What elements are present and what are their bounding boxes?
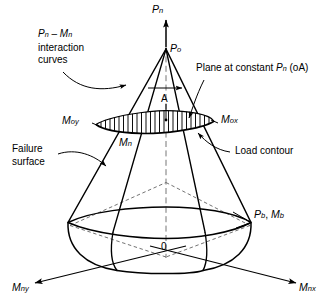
label-origin: 0: [161, 241, 167, 252]
interaction-dash: –: [49, 28, 60, 39]
plane-annotation-prefix: Plane at constant: [196, 62, 276, 73]
axis-label-pn: Pn: [152, 3, 163, 15]
annotation-plane-at-constant-pn: Plane at constant Pn (oA): [196, 62, 308, 73]
plane-annotation-suffix: (oA): [287, 62, 309, 73]
leader-load-contour: [198, 133, 230, 152]
axis-label-mnx-symbol: M: [299, 281, 308, 293]
label-mn-symbol: M: [119, 136, 128, 148]
point-label-po-subscript: o: [177, 45, 181, 54]
axis-label-mnx-subscript: nx: [308, 284, 316, 293]
axis-label-mnx: Mnx: [299, 281, 316, 293]
label-pb-symbol: P: [254, 208, 261, 220]
point-label-a: A: [161, 93, 168, 104]
interaction-mn-subscript: n: [68, 30, 72, 39]
point-label-po-symbol: P: [170, 42, 177, 54]
label-mn-subscript: n: [128, 139, 132, 148]
leader-failure-surface: [58, 152, 106, 166]
axis-label-mny-symbol: M: [12, 281, 21, 293]
annotation-interaction-curves: Pn – Mn interaction curves: [38, 28, 84, 67]
label-moy: Moy: [62, 114, 79, 126]
label-moy-subscript: oy: [71, 117, 79, 126]
balanced-point-marker: [233, 212, 251, 228]
annotation-load-contour: Load contour: [235, 145, 293, 156]
annotation-interaction-curves-line1: Pn – Mn: [38, 28, 84, 42]
axis-label-pn-subscript: n: [159, 6, 163, 15]
leader-interaction-curves: [63, 72, 126, 89]
annotation-failure-surface-line2: surface: [12, 156, 45, 169]
label-mox: Mox: [221, 113, 238, 125]
axis-label-pn-symbol: P: [152, 3, 159, 15]
label-mb-symbol: M: [271, 208, 280, 220]
interaction-mn-symbol: M: [60, 28, 68, 39]
annotation-failure-surface: Failure surface: [12, 143, 45, 168]
label-mox-subscript: ox: [230, 116, 238, 125]
plane-annotation-symbol: P: [276, 62, 283, 73]
annotation-interaction-curves-line2: interaction: [38, 42, 84, 55]
label-moy-symbol: M: [62, 114, 71, 126]
label-mox-symbol: M: [221, 113, 230, 125]
label-mb-subscript: b: [280, 211, 284, 220]
axis-label-mny-subscript: ny: [21, 284, 29, 293]
interaction-pn-symbol: P: [38, 28, 45, 39]
biaxial-bending-failure-surface-figure: Pn Po Pn – Mn interaction curves Plane a…: [0, 0, 332, 304]
failure-surface-outline: [68, 49, 251, 223]
axis-label-mny: Mny: [12, 281, 29, 293]
label-mn: Mn: [119, 136, 132, 148]
point-label-po: Po: [170, 42, 181, 54]
annotation-interaction-curves-line3: curves: [38, 54, 84, 67]
base-reference-plane-dashed: [70, 183, 250, 258]
label-balanced-point: Pb, Mb: [254, 208, 284, 220]
annotation-failure-surface-line1: Failure: [12, 143, 45, 156]
